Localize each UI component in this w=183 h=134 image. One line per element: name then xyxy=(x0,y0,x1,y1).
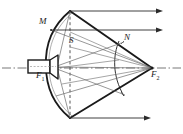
point-m-marker xyxy=(50,29,52,31)
feed-horn-flare xyxy=(50,55,58,79)
optical-diagram-figure: M S N F1 F2 xyxy=(0,0,183,134)
ray-f1-fan-d xyxy=(57,60,119,68)
diagram-canvas xyxy=(0,0,183,134)
label-m: M xyxy=(39,17,47,26)
arrowhead-bottom xyxy=(144,116,151,121)
ray-rim-top-to-f2 xyxy=(70,11,152,68)
label-n: N xyxy=(124,33,130,42)
label-f1: F1 xyxy=(36,71,45,82)
label-s: S xyxy=(69,36,74,45)
ray-f1-fan-c xyxy=(57,69,125,95)
label-f2: F2 xyxy=(151,70,160,81)
arrowhead-top xyxy=(156,9,163,14)
arrowhead-middle xyxy=(156,28,163,33)
label-f2-subscript: 2 xyxy=(157,75,160,81)
label-f1-subscript: 1 xyxy=(42,76,45,82)
ray-lower-to-f2 xyxy=(56,68,152,96)
